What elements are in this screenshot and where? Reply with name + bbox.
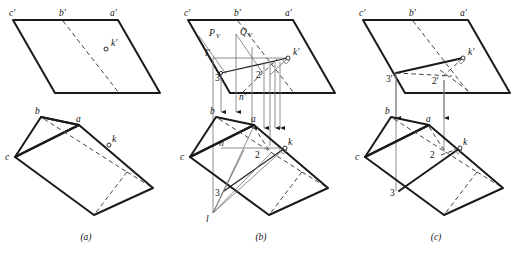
label-k-prime-c: k'	[468, 47, 475, 57]
panel-c-point-k-prime-marker	[461, 56, 465, 60]
label-qv-subscript: V	[248, 31, 253, 38]
label-a-prime-a: a'	[110, 8, 118, 18]
label-3-prime-c: 3'	[386, 74, 393, 84]
panel-a: c' b' a' k' b a	[5, 8, 160, 243]
panel-c-line-3-2-k	[396, 58, 463, 73]
label-a-b: a	[251, 114, 256, 124]
label-a-a: a	[76, 114, 81, 124]
panel-b-ray-l-3	[213, 153, 271, 213]
label-n-b: n	[219, 138, 224, 148]
label-c-prime-a: c'	[9, 8, 16, 18]
label-b-a: b	[35, 106, 40, 116]
label-b-b: b	[210, 106, 215, 116]
label-2-prime-b: 2'	[256, 70, 263, 80]
label-qv-b: Q V	[240, 27, 253, 38]
label-pv-subscript: V	[216, 32, 221, 39]
label-a-prime-c: a'	[460, 8, 468, 18]
label-c-prime-b: c'	[184, 8, 191, 18]
label-3-b: 3	[215, 188, 220, 198]
label-a-c: a	[426, 114, 431, 124]
panel-c-point-k-marker	[458, 146, 462, 150]
caption-b: (b)	[255, 232, 266, 243]
panel-b-hidden-center-2	[302, 172, 328, 188]
panel-a-hidden-center-2	[127, 172, 153, 188]
panel-b-front-view: c' b' a' k' P V Q V l' 3' 2' n'	[184, 8, 335, 102]
panel-a-top-view: b a c k	[5, 106, 153, 215]
panel-b-point-k-prime-marker	[286, 56, 290, 60]
label-pv-b: P V	[208, 28, 221, 39]
label-k-a: k	[112, 134, 117, 144]
label-pv-letter: P	[208, 28, 215, 38]
caption-a: (a)	[80, 232, 91, 243]
panel-a-point-k-marker	[107, 143, 111, 147]
caption-c: (c)	[431, 232, 442, 243]
label-qv-letter: Q	[240, 27, 247, 37]
label-k-prime-b: k'	[293, 47, 300, 57]
panel-c-top-view: b a c k 2 3	[355, 106, 503, 215]
panel-a-front-view: c' b' a' k'	[9, 8, 160, 93]
panel-a-base-outline	[15, 125, 153, 215]
label-c-b: c	[180, 152, 185, 162]
panel-c-front-view: c' b' a' k' 3' 2'	[359, 8, 510, 93]
label-2-b: 2	[255, 150, 260, 160]
figure-root: c' b' a' k' b a	[0, 0, 529, 256]
panel-c: c' b' a' k' 3' 2'	[355, 8, 510, 243]
panel-b-base-outline	[190, 125, 328, 215]
panel-c-hidden-center-1	[444, 172, 477, 215]
panel-b: c' b' a' k' P V Q V l' 3' 2' n'	[180, 8, 335, 243]
label-b-prime-b: b'	[234, 8, 242, 18]
panel-b-hidden-center-1	[269, 172, 302, 215]
label-l-b: l	[206, 214, 209, 224]
label-a-prime-b: a'	[285, 8, 293, 18]
panel-b-ray-l-2	[213, 150, 244, 213]
panel-c-hidden-center-2	[477, 172, 503, 188]
label-c-c: c	[355, 152, 360, 162]
label-2-prime-c: 2'	[432, 76, 439, 86]
label-3-c: 3	[390, 188, 395, 198]
label-b-prime-a: b'	[59, 8, 67, 18]
panel-b-trace-pv	[199, 36, 226, 74]
label-n-prime-b: n'	[239, 92, 247, 102]
panel-c-hidden-diag-2	[440, 70, 470, 92]
panel-b-top-view: b a c k n 2 3 l	[180, 106, 328, 224]
panel-a-point-k-prime-marker	[104, 47, 108, 51]
label-b-prime-c: b'	[409, 8, 417, 18]
label-k-b: k	[288, 137, 293, 147]
panel-b-ray-l-4	[213, 148, 285, 213]
label-c-prime-c: c'	[359, 8, 366, 18]
panel-c-base-outline	[365, 125, 503, 215]
label-2-c: 2	[430, 150, 435, 160]
panel-a-hidden-center-1	[94, 172, 127, 215]
label-c-a: c	[5, 152, 10, 162]
panel-c-ridge-bac	[365, 117, 429, 157]
panel-b-line-3-2-k	[221, 58, 288, 73]
panel-a-hidden-diagonal	[63, 21, 119, 93]
label-k-c: k	[463, 137, 468, 147]
geometry-figure: c' b' a' k' b a	[0, 0, 529, 256]
label-b-c: b	[385, 106, 390, 116]
panel-b-point-k-marker	[283, 146, 287, 150]
panel-a-hidden-b-diag	[44, 119, 127, 172]
panel-b-ridge-bac	[190, 117, 254, 157]
panel-c-hidden-diagonal	[413, 21, 469, 93]
panel-a-plane-outline	[13, 20, 160, 93]
label-k-prime-a: k'	[111, 38, 118, 48]
